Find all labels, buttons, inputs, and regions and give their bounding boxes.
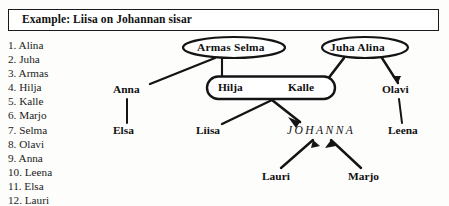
node-label-anna: Anna: [113, 83, 140, 95]
node-label-hilja: Hilja: [218, 81, 243, 93]
edge-hiljakalle-liisa: [222, 100, 272, 124]
node-label-liisa: Liisa: [196, 124, 220, 136]
node-label-armas-selma: Armas Selma: [197, 41, 265, 53]
node-label-johanna: JOHANNA: [287, 124, 355, 137]
edge-johanna-lauri: [281, 140, 313, 168]
node-label-kalle: Kalle: [288, 81, 314, 93]
node-label-juha-alina: Juha Alina: [330, 41, 385, 53]
node-label-lauri: Lauri: [262, 170, 290, 182]
node-label-marjo: Marjo: [348, 170, 379, 182]
figure-page: Example: Liisa on Johannan sisar 1. Alin…: [0, 0, 449, 206]
edge-armasselma-anna: [150, 58, 215, 84]
node-label-leena: Leena: [388, 124, 418, 136]
edge-hiljakalle-johanna: [272, 100, 300, 122]
node-label-elsa: Elsa: [113, 124, 134, 136]
node-label-olavi: Olavi: [382, 83, 409, 95]
edge-olavi-leena: [399, 99, 402, 123]
genealogy-tree-diagram: [0, 0, 449, 206]
edge-johanna-marjo: [331, 140, 361, 168]
